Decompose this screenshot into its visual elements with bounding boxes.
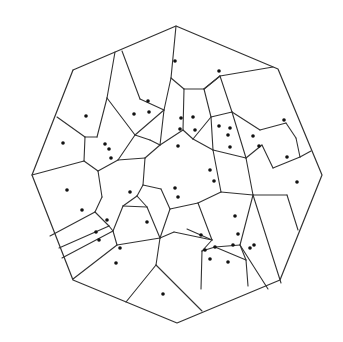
voronoi-diagram: [0, 0, 343, 342]
voronoi-site: [61, 141, 65, 145]
voronoi-site: [248, 246, 252, 250]
background: [0, 0, 343, 342]
voronoi-site: [257, 144, 261, 148]
voronoi-site: [178, 127, 182, 131]
voronoi-site: [228, 126, 232, 130]
voronoi-site: [109, 156, 113, 160]
voronoi-site: [295, 180, 299, 184]
voronoi-site: [191, 115, 195, 119]
voronoi-site: [193, 128, 197, 132]
voronoi-site: [212, 179, 216, 183]
voronoi-site: [282, 118, 286, 122]
voronoi-site: [179, 116, 183, 120]
voronoi-site: [228, 145, 232, 149]
voronoi-site: [233, 214, 237, 218]
voronoi-site: [199, 233, 203, 237]
voronoi-site: [176, 195, 180, 199]
voronoi-site: [236, 232, 240, 236]
voronoi-site: [226, 133, 230, 137]
voronoi-site: [173, 186, 177, 190]
voronoi-site: [65, 188, 69, 192]
voronoi-site: [114, 261, 118, 265]
voronoi-site: [208, 168, 212, 172]
voronoi-site: [94, 230, 98, 234]
voronoi-site: [146, 99, 150, 103]
voronoi-site: [107, 147, 111, 151]
voronoi-site: [118, 246, 122, 250]
voronoi-site: [84, 114, 88, 118]
voronoi-site: [97, 238, 101, 242]
voronoi-site: [208, 257, 212, 261]
voronoi-site: [103, 142, 107, 146]
voronoi-site: [80, 208, 84, 212]
voronoi-site: [251, 134, 255, 138]
voronoi-site: [145, 220, 149, 224]
voronoi-site: [231, 243, 235, 247]
voronoi-site: [285, 155, 289, 159]
voronoi-site: [217, 69, 221, 73]
voronoi-site: [176, 144, 180, 148]
voronoi-site: [128, 190, 132, 194]
voronoi-site: [173, 59, 177, 63]
voronoi-site: [213, 245, 217, 249]
voronoi-site: [203, 248, 207, 252]
voronoi-site: [105, 218, 109, 222]
voronoi-site: [132, 112, 136, 116]
voronoi-site: [217, 124, 221, 128]
voronoi-site: [161, 292, 165, 296]
voronoi-site: [147, 110, 151, 114]
voronoi-site: [252, 243, 256, 247]
voronoi-site: [226, 260, 230, 264]
